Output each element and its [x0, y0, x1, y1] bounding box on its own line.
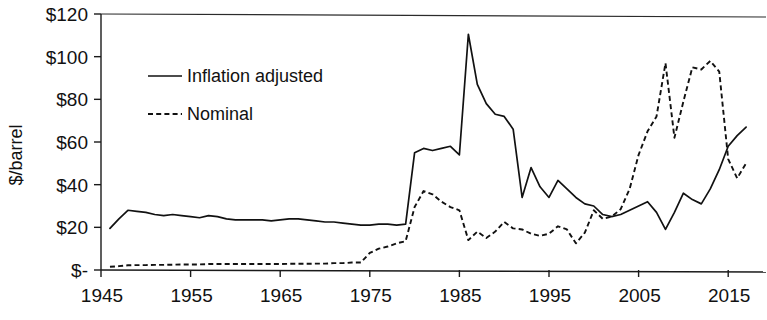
x-axis-tick-label: 2015 [708, 285, 750, 306]
y-axis-tick-labels: $-$20$40$60$80$100$120 [46, 4, 88, 281]
y-axis-tick-label: $120 [46, 4, 88, 25]
x-axis-tick-label: 1965 [260, 285, 302, 306]
x-axis-line [101, 270, 766, 272]
top-gridline-120 [101, 14, 766, 17]
chart-legend: Inflation adjusted Nominal [148, 66, 323, 124]
x-axis-tick-labels: 19451955196519751985199520052015 [81, 285, 750, 306]
y-axis-tick-label: $20 [56, 217, 88, 238]
series-line-nominal [110, 61, 746, 267]
y-axis-tick-label: $100 [46, 47, 88, 68]
legend-label-inflation-adjusted: Inflation adjusted [187, 66, 323, 86]
x-axis-tick-label: 1995 [529, 285, 571, 306]
chart-container: $-$20$40$60$80$100$120 19451955196519751… [0, 0, 767, 320]
legend-label-nominal: Nominal [187, 104, 253, 124]
x-axis-tick-label: 2005 [618, 285, 660, 306]
x-axis-tick-label: 1955 [170, 285, 212, 306]
y-axis-tick-label: $40 [56, 175, 88, 196]
y-axis-tick-label: $80 [56, 89, 88, 110]
y-axis-tick-label: $- [71, 260, 88, 281]
series-line-inflation-adjusted [110, 34, 746, 229]
x-axis-tick-label: 1985 [439, 285, 481, 306]
x-axis-tick-label: 1945 [81, 285, 123, 306]
y-axis-tick-label: $60 [56, 132, 88, 153]
x-axis-tick-label: 1975 [350, 285, 392, 306]
y-axis-title: $/barrel [6, 124, 26, 185]
y-axis-ticks [94, 14, 101, 270]
oil-price-line-chart: $-$20$40$60$80$100$120 19451955196519751… [0, 0, 767, 320]
